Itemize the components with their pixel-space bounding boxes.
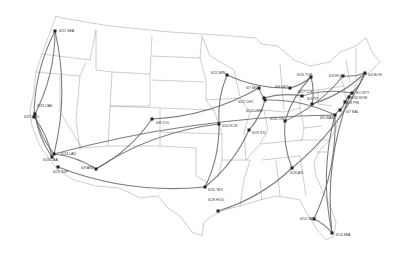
stop-marker-sdp	[57, 166, 60, 169]
stop-label-mia: 6/14 MIA	[336, 233, 350, 237]
stop-label-mil: 6/7 MIL	[246, 86, 258, 90]
stop-markers	[33, 30, 367, 235]
stop-marker-mia	[331, 232, 334, 235]
stop-label-hou2: 6/3 HOU	[329, 74, 343, 78]
stop-marker-hou	[217, 210, 220, 213]
stop-marker-nyy	[351, 92, 354, 95]
stop-label-cin: 6/14 CIN	[270, 117, 284, 121]
stop-label-cle: 6/17 CLE	[298, 90, 313, 94]
stop-marker-det	[289, 87, 292, 90]
stop-marker-col	[151, 118, 154, 121]
stop-label-kcr: 6/10 KCR	[222, 124, 238, 128]
stop-marker-sea	[54, 30, 57, 33]
stop-label-lad: 6/24 LAD	[61, 152, 76, 156]
route-stl-tex	[205, 130, 249, 187]
stop-label-atl: 6/26 ATL	[290, 171, 304, 175]
route-hou-atl	[218, 168, 292, 211]
stop-marker-bos	[364, 72, 367, 75]
route-sdp-tex	[58, 167, 205, 189]
stop-label-tor: 6/16 TOR	[297, 73, 312, 77]
stop-label-nyy: 6/1 NYY	[356, 91, 369, 95]
stop-label-bal: 6/7 BAL	[346, 110, 359, 114]
route-atl-cin	[285, 121, 292, 168]
route-lines	[34, 31, 365, 233]
route-det-tor	[290, 77, 311, 88]
stop-label-min: 6/11 MIN	[211, 71, 225, 75]
stop-label-phi: 6/3 PHI	[347, 101, 359, 105]
route-sea-oak	[35, 31, 55, 114]
route-kcr-min	[219, 75, 227, 124]
stop-label-pit: 6/2 PIT	[307, 97, 319, 101]
stop-marker-lad	[53, 153, 56, 156]
stop-marker-cle	[301, 95, 304, 98]
stop-label-hou: 6/28 HOU	[208, 198, 224, 202]
stop-label-tam: 6/13 TAM	[300, 217, 315, 221]
route-stl-chw	[249, 100, 265, 130]
stop-label-det: 6/6 DET	[275, 85, 288, 89]
stop-label-chw: 6/13 CHW	[246, 109, 263, 113]
stop-label-sfo: 6/22 SFO	[24, 115, 39, 119]
stop-marker-chw	[264, 99, 267, 102]
stop-label-tex: 6/20 TEX	[208, 188, 223, 192]
stop-label-bos: 6/4 BOS	[368, 73, 382, 77]
route-sea-lad	[54, 31, 62, 154]
stop-marker-kcr	[218, 123, 221, 126]
route-atl-bos	[292, 73, 365, 168]
stop-marker-pit	[311, 103, 314, 106]
stop-label-oak: 6/23 OAK	[37, 104, 53, 108]
stop-label-was: 6/5 WAS	[320, 116, 334, 120]
stop-marker-arz	[95, 168, 98, 171]
stop-label-sea: 6/21 SEA	[59, 29, 74, 33]
stop-marker-bal	[339, 109, 342, 112]
stop-marker-tex	[204, 186, 207, 189]
stop-label-laa: 6/26 LAA	[43, 158, 58, 162]
stop-label-sdp: 6/25 SDP	[53, 170, 68, 174]
stop-marker-stl	[248, 129, 251, 132]
us-route-map	[0, 0, 407, 263]
stop-label-chc: 6/12 CHC	[238, 100, 254, 104]
stop-marker-min	[226, 74, 229, 77]
stop-label-nym: 6/30 NYM	[351, 96, 367, 100]
stop-label-stl: 6/19 STL	[252, 131, 267, 135]
stop-label-arz: 6/9 ARZ	[81, 166, 94, 170]
stop-marker-atl	[291, 167, 294, 170]
stop-label-col: 6/8 COL	[156, 121, 169, 125]
